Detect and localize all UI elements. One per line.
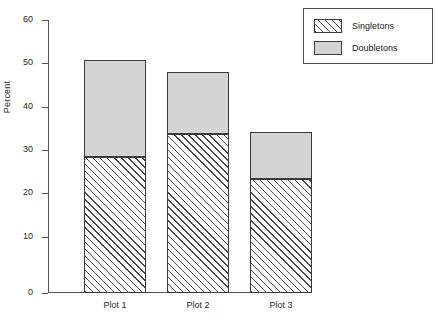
bar-segment-singletons[interactable] <box>167 134 229 293</box>
bar-group-plot-3[interactable]: Plot 3 <box>250 132 312 293</box>
y-tick-label-60: 60 <box>7 14 33 24</box>
bar-segment-singletons[interactable] <box>84 157 146 294</box>
y-tick-label-30: 30 <box>7 144 33 154</box>
bar-group-plot-1[interactable]: Plot 1 <box>84 60 146 293</box>
legend-swatch-singletons-icon <box>314 19 342 33</box>
y-tick-0: 0 <box>42 293 48 294</box>
legend-label-doubletons: Doubletons <box>352 43 398 53</box>
bar-group-plot-2[interactable]: Plot 2 <box>167 72 229 293</box>
y-tick-40: 40 <box>42 107 48 108</box>
x-tick-label-plot-1: Plot 1 <box>103 300 126 310</box>
bar-segment-singletons[interactable] <box>250 179 312 293</box>
bar-segment-doubletons[interactable] <box>84 60 146 157</box>
legend-item-singletons[interactable]: Singletons <box>314 18 394 33</box>
y-tick-label-50: 50 <box>7 57 33 67</box>
bar-segment-doubletons[interactable] <box>167 72 229 133</box>
y-tick-50: 50 <box>42 63 48 64</box>
y-tick-30: 30 <box>42 150 48 151</box>
legend-label-singletons: Singletons <box>352 21 394 31</box>
x-tick-label-plot-3: Plot 3 <box>269 300 292 310</box>
chart-legend: Singletons Doubletons <box>303 8 433 64</box>
y-tick-10: 10 <box>42 237 48 238</box>
bar-segment-doubletons[interactable] <box>250 132 312 179</box>
y-tick-label-20: 20 <box>7 187 33 197</box>
plot-area: 60 50 40 30 20 10 0 Plot 1 Plot <box>48 20 293 293</box>
y-tick-label-0: 0 <box>7 287 33 297</box>
legend-swatch-doubletons-icon <box>314 41 342 55</box>
legend-item-doubletons[interactable]: Doubletons <box>314 40 398 55</box>
y-tick-label-10: 10 <box>7 231 33 241</box>
stacked-bar-chart: Percent 60 50 40 30 20 10 0 Plot 1 <box>0 0 443 319</box>
y-tick-20: 20 <box>42 193 48 194</box>
y-tick-60: 60 <box>42 20 48 21</box>
x-tick-label-plot-2: Plot 2 <box>186 300 209 310</box>
y-tick-label-40: 40 <box>7 101 33 111</box>
y-axis-line <box>48 20 49 293</box>
